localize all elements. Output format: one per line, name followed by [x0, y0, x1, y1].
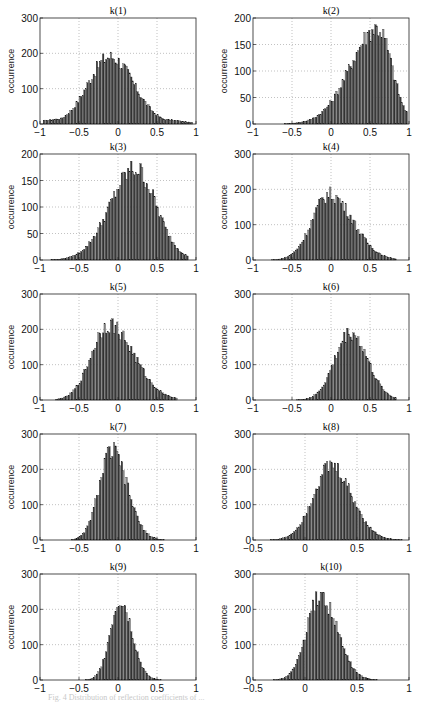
y-tick-label: 300 — [234, 429, 251, 440]
y-tick-label: 200 — [234, 13, 251, 24]
x-tick-label: −0.5 — [69, 543, 89, 554]
histogram-plot: k(7)0100200300−1−0.500.51occurrence — [0, 420, 200, 558]
histogram-panel-9: k(9)0100200300−1−0.500.51occurrence — [0, 560, 200, 698]
x-tick-label: 0.5 — [350, 543, 364, 554]
x-tick-label: 0 — [328, 403, 334, 414]
x-tick-label: 0 — [115, 543, 121, 554]
histogram-bars — [273, 592, 378, 680]
x-tick-label: 0 — [328, 127, 334, 138]
x-tick-label: −1 — [247, 403, 259, 414]
x-tick-label: −1 — [34, 403, 46, 414]
y-tick-label: 100 — [234, 500, 251, 511]
y-tick-label: 300 — [234, 149, 251, 160]
histogram-bars — [56, 319, 178, 400]
y-axis-label: occurrence — [6, 605, 16, 650]
y-axis-label: occurrence — [219, 185, 229, 230]
x-tick-label: 0 — [328, 263, 334, 274]
x-tick-label: 0 — [115, 403, 121, 414]
y-axis-label: occurrence — [219, 325, 229, 370]
y-tick-label: 300 — [21, 429, 38, 440]
y-axis-label: occurrence — [219, 49, 229, 94]
x-tick-label: 1 — [406, 403, 412, 414]
histogram-plot: k(1)0100200300−1−0.500.51occurrence — [0, 4, 200, 142]
y-tick-label: 150 — [234, 40, 251, 51]
panel-title: k(6) — [323, 281, 340, 293]
panel-title: k(5) — [110, 281, 127, 293]
x-tick-label: −0.5 — [243, 543, 263, 554]
y-tick-label: 100 — [21, 84, 38, 95]
y-tick-label: 100 — [234, 640, 251, 651]
x-tick-label: −1 — [247, 263, 259, 274]
histogram-panel-4: k(4)0100200300−1−0.500.51occurrence — [213, 140, 413, 278]
histogram-bars — [51, 161, 188, 260]
histogram-panel-7: k(7)0100200300−1−0.500.51occurrence — [0, 420, 200, 558]
y-tick-label: 100 — [234, 66, 251, 77]
y-tick-label: 300 — [21, 569, 38, 580]
histogram-bars — [272, 187, 397, 260]
histogram-panel-3: k(3)050100150200−1−0.500.51occurrence — [0, 140, 200, 278]
x-tick-label: −0.5 — [282, 403, 302, 414]
y-tick-label: 50 — [240, 93, 252, 104]
x-tick-label: 0 — [302, 683, 308, 694]
x-tick-label: −1 — [247, 127, 259, 138]
histogram-bars — [284, 25, 407, 124]
y-axis-label: occurrence — [6, 185, 16, 230]
x-tick-label: 1 — [193, 403, 199, 414]
x-tick-label: 0.5 — [150, 543, 164, 554]
histogram-bars — [43, 52, 193, 124]
x-tick-label: 0 — [115, 263, 121, 274]
y-tick-label: 200 — [21, 149, 38, 160]
x-tick-label: 0.5 — [363, 263, 377, 274]
histogram-bars — [270, 461, 403, 540]
histogram-plot: k(9)0100200300−1−0.500.51occurrence — [0, 560, 200, 698]
x-tick-label: 1 — [193, 543, 199, 554]
panel-title: k(7) — [110, 421, 127, 433]
x-tick-label: 0.5 — [363, 403, 377, 414]
x-tick-label: −0.5 — [69, 263, 89, 274]
y-tick-label: 300 — [234, 569, 251, 580]
histogram-panel-5: k(5)0100200300−1−0.500.51occurrence — [0, 280, 200, 418]
panel-title: k(10) — [320, 561, 342, 573]
x-tick-label: 0.5 — [363, 127, 377, 138]
y-tick-label: 150 — [21, 176, 38, 187]
x-tick-label: 0.5 — [150, 263, 164, 274]
histogram-plot: k(8)0100200300−0.500.51occurrence — [213, 420, 413, 558]
x-tick-label: −1 — [34, 683, 46, 694]
x-tick-label: −0.5 — [282, 127, 302, 138]
panel-title: k(9) — [110, 561, 127, 573]
x-tick-label: 1 — [193, 127, 199, 138]
histogram-panel-6: k(6)0100200300−1−0.500.51occurrence — [213, 280, 413, 418]
x-tick-label: 1 — [406, 683, 412, 694]
y-tick-label: 100 — [21, 202, 38, 213]
y-tick-label: 100 — [234, 360, 251, 371]
x-tick-label: −0.5 — [243, 683, 263, 694]
histogram-panel-2: k(2)050100150200−1−0.500.51occurrence — [213, 4, 413, 142]
y-axis-label: occurrence — [6, 49, 16, 94]
y-tick-label: 100 — [21, 500, 38, 511]
y-axis-label: occurrence — [219, 605, 229, 650]
y-tick-label: 300 — [234, 289, 251, 300]
histogram-panel-10: k(10)0100200300−0.500.51occurrence — [213, 560, 413, 698]
x-tick-label: −0.5 — [69, 403, 89, 414]
histogram-bars — [71, 442, 165, 540]
panel-title: k(2) — [323, 5, 340, 17]
y-tick-label: 200 — [234, 324, 251, 335]
panel-title: k(1) — [110, 5, 127, 17]
x-tick-label: 1 — [406, 263, 412, 274]
x-tick-label: −0.5 — [282, 263, 302, 274]
y-tick-label: 200 — [21, 604, 38, 615]
panel-title: k(3) — [110, 141, 127, 153]
y-tick-label: 200 — [234, 604, 251, 615]
y-tick-label: 200 — [21, 464, 38, 475]
x-tick-label: 0.5 — [150, 403, 164, 414]
histogram-bars — [297, 328, 397, 400]
x-tick-label: −1 — [34, 263, 46, 274]
y-axis-label: occurrence — [6, 465, 16, 510]
histogram-plot: k(6)0100200300−1−0.500.51occurrence — [213, 280, 413, 418]
y-axis-label: occurrence — [219, 465, 229, 510]
x-tick-label: 0 — [302, 543, 308, 554]
y-tick-label: 300 — [21, 13, 38, 24]
x-tick-label: 0 — [115, 127, 121, 138]
histogram-plot: k(3)050100150200−1−0.500.51occurrence — [0, 140, 200, 278]
y-axis-label: occurrence — [6, 325, 16, 370]
